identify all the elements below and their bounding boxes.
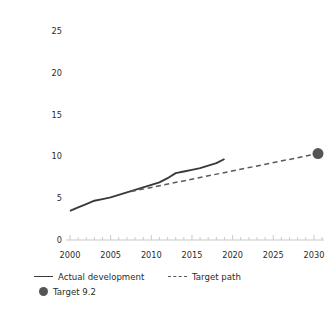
- legend-label-target-path: Target path: [192, 272, 241, 282]
- solid-line-icon: [34, 276, 53, 277]
- legend-item-target-92: Target 9.2: [34, 284, 96, 299]
- legend-row-1: Actual development Target path: [34, 269, 324, 284]
- chart-legend: Actual development Target path Target 9.…: [34, 269, 324, 299]
- legend-label-target-92: Target 9.2: [53, 287, 96, 297]
- target-marker: [313, 148, 324, 159]
- legend-item-target-path: Target path: [168, 269, 241, 284]
- dashed-line-icon: [168, 276, 187, 277]
- chart-container: LDC share of manufacturing in employment…: [0, 0, 334, 313]
- plot-area: [0, 0, 334, 313]
- filled-circle-icon: [39, 287, 48, 296]
- legend-item-actual-development: Actual development: [34, 269, 144, 284]
- legend-label-actual-development: Actual development: [58, 272, 144, 282]
- legend-row-2: Target 9.2: [34, 284, 324, 299]
- series-line-actual-development: [70, 159, 224, 211]
